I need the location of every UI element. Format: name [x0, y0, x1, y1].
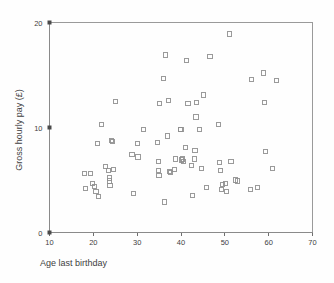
data-point: [157, 168, 161, 172]
data-point: [163, 53, 167, 57]
x-tick-label-10: 10: [45, 238, 53, 247]
data-points-group: [82, 32, 278, 204]
data-point: [157, 174, 161, 178]
scatter-plot-figure: 1020304050607001020 Age last birthday Gr…: [0, 0, 334, 283]
y-tick-label-0: 0: [38, 229, 42, 238]
data-point: [190, 194, 194, 198]
data-point: [263, 150, 267, 154]
data-point: [83, 186, 87, 190]
data-point: [197, 128, 201, 132]
data-point: [111, 167, 115, 171]
data-point: [229, 159, 233, 163]
y-axis-title-text: Gross hourly pay (£): [14, 65, 24, 195]
data-point: [104, 164, 108, 168]
data-point: [255, 185, 259, 189]
data-point: [89, 172, 93, 176]
data-point: [274, 78, 278, 82]
data-point: [183, 145, 187, 149]
data-point: [141, 128, 145, 132]
data-point: [227, 32, 231, 36]
x-tick-label-30: 30: [133, 238, 141, 247]
scatter-plot-canvas: 1020304050607001020: [0, 0, 334, 283]
data-point: [136, 155, 140, 159]
data-point: [130, 153, 134, 157]
data-point: [204, 185, 208, 189]
data-point: [162, 200, 166, 204]
data-point: [186, 101, 190, 105]
data-point: [199, 166, 203, 170]
data-point: [195, 100, 199, 104]
data-point: [113, 99, 117, 103]
x-tick-label-50: 50: [221, 238, 229, 247]
data-point: [249, 77, 253, 81]
x-tick-label-40: 40: [177, 238, 185, 247]
data-point: [82, 172, 86, 176]
y-tick-10: [48, 126, 52, 130]
x-tick-label-60: 60: [264, 238, 272, 247]
data-point: [167, 98, 171, 102]
data-point: [194, 115, 198, 119]
data-point: [156, 159, 160, 163]
data-point: [219, 187, 223, 191]
data-point: [262, 100, 266, 104]
x-tick-label-20: 20: [89, 238, 97, 247]
data-point: [161, 76, 165, 80]
data-point: [218, 168, 222, 172]
data-point: [108, 183, 112, 187]
data-point: [157, 101, 161, 105]
data-point: [173, 167, 177, 171]
data-point: [193, 149, 197, 153]
data-point: [270, 166, 274, 170]
data-point: [96, 141, 100, 145]
data-point: [261, 71, 265, 75]
data-point: [99, 122, 103, 126]
data-point: [217, 122, 221, 126]
data-point: [189, 163, 193, 167]
y-tick-label-20: 20: [34, 19, 42, 28]
data-point: [94, 189, 98, 193]
y-tick-label-10: 10: [34, 124, 42, 133]
x-axis-title-text: Age last birthday: [40, 258, 107, 268]
data-point: [174, 157, 178, 161]
x-tick-label-70: 70: [308, 238, 316, 247]
data-point: [208, 54, 212, 58]
data-point: [155, 140, 159, 144]
data-point: [96, 195, 100, 199]
data-point: [166, 134, 170, 138]
data-point: [135, 141, 139, 145]
y-tick-0: [48, 231, 52, 235]
data-point: [192, 157, 196, 161]
data-point: [224, 189, 228, 193]
data-point: [217, 160, 221, 164]
data-point: [106, 168, 110, 172]
data-point: [132, 192, 136, 196]
data-point: [184, 58, 188, 62]
y-tick-20: [48, 21, 52, 25]
data-point: [248, 187, 252, 191]
data-point: [202, 93, 206, 97]
